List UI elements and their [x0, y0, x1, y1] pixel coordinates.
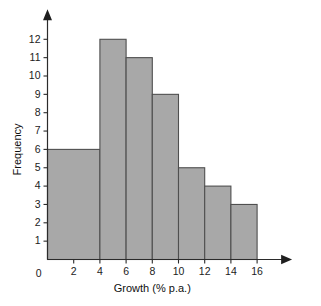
cropped-top-text [0, 0, 321, 5]
histogram-bar [100, 39, 126, 259]
y-tick-label: 1 [35, 234, 41, 246]
y-tick-label: 6 [35, 143, 41, 155]
histogram-bar [231, 204, 257, 259]
y-tick-label: 7 [35, 124, 41, 136]
histogram-chart: 0123456789101112 246810121416 Growth (% … [0, 0, 321, 306]
histogram-bar [152, 94, 178, 259]
y-axis-arrow-icon [43, 9, 52, 20]
y-tick-label: 3 [35, 198, 41, 210]
cropped-bottom-text [0, 299, 321, 306]
histogram-bar [179, 168, 205, 260]
y-tick-label: 10 [29, 69, 41, 81]
x-tick-label: 12 [199, 265, 211, 277]
y-tick-label: 4 [35, 179, 41, 191]
chart-canvas: 0123456789101112 246810121416 Growth (% … [0, 0, 321, 306]
x-tick-label: 6 [123, 265, 129, 277]
y-axis-title: Frequency [11, 123, 23, 175]
y-tick-label: 2 [35, 216, 41, 228]
y-tick-label: 8 [35, 106, 41, 118]
x-tick-label: 8 [149, 265, 155, 277]
y-tick-label: 12 [29, 33, 41, 45]
histogram-bar [205, 186, 231, 259]
x-axis-arrow-icon [281, 255, 292, 265]
histogram-bar [48, 149, 100, 259]
y-axis-ticks: 0123456789101112 [29, 33, 48, 280]
y-tick-label: 9 [35, 88, 41, 100]
bars-group [48, 39, 258, 259]
y-tick-label: 0 [36, 267, 42, 279]
x-tick-label: 4 [97, 265, 103, 277]
x-tick-label: 2 [71, 265, 77, 277]
x-axis-title: Growth (% p.a.) [114, 282, 191, 294]
y-tick-label: 5 [35, 161, 41, 173]
y-tick-label: 11 [30, 51, 41, 63]
x-tick-label: 14 [225, 265, 237, 277]
histogram-bar [126, 58, 152, 260]
x-tick-label: 16 [251, 265, 263, 277]
x-tick-label: 10 [173, 265, 185, 277]
x-axis-ticks: 246810121416 [71, 260, 263, 277]
